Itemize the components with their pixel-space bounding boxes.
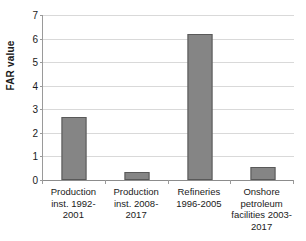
bar[interactable] (125, 172, 150, 180)
y-tick-label: 3 (32, 104, 38, 115)
y-tick-label: 5 (32, 57, 38, 68)
y-tick-label: 4 (32, 80, 38, 91)
x-axis-labels: Production inst. 1992-2001Production ins… (42, 186, 293, 241)
plot-area: 76543210 (42, 15, 294, 181)
x-tick-mark (42, 180, 43, 184)
y-tick-label: 0 (32, 175, 38, 186)
bar[interactable] (250, 167, 275, 180)
bar-slot (43, 15, 106, 180)
x-axis-label: Production inst. 1992-2001 (42, 186, 105, 221)
bar[interactable] (187, 34, 212, 180)
x-tick-mark (230, 180, 231, 184)
x-axis-label: Onshore petroleum facilities 2003-2017 (230, 186, 293, 232)
x-axis-label: Production inst. 2008-2017 (105, 186, 168, 221)
y-tick-label: 6 (32, 33, 38, 44)
bar-chart: FAR value 76543210 Production inst. 1992… (0, 0, 306, 241)
bar-slot (231, 15, 294, 180)
x-tick-mark (293, 180, 294, 184)
bar[interactable] (62, 117, 87, 180)
y-tick-label: 7 (32, 10, 38, 21)
x-axis-label: Refineries 1996-2005 (168, 186, 231, 209)
bar-slot (106, 15, 169, 180)
bar-slot (169, 15, 232, 180)
y-tick-label: 2 (32, 127, 38, 138)
bars-group (43, 15, 294, 180)
y-tick-label: 1 (32, 151, 38, 162)
x-tick-mark (168, 180, 169, 184)
y-axis-title: FAR value (5, 26, 16, 106)
x-tick-mark (105, 180, 106, 184)
